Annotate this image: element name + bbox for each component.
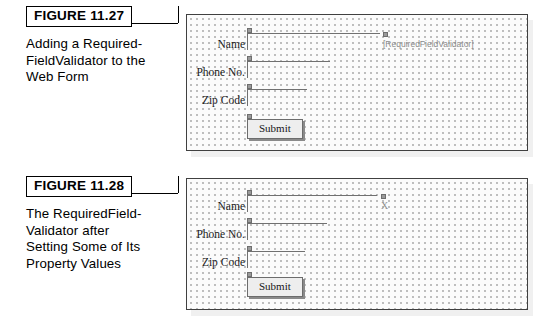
web-form-designer-panel-1127[interactable]: Name [RequiredFieldValidator] Phone No. … <box>186 14 528 151</box>
required-field-validator-error-mark[interactable]: X <box>381 201 388 211</box>
label-name: Name <box>218 38 245 50</box>
form-row-zip: Zip Code <box>187 251 507 273</box>
field-wrap-name <box>247 195 377 214</box>
field-wrap-name <box>247 33 380 52</box>
field-wrap-phone <box>247 61 330 80</box>
caption-line: Web Form <box>26 69 178 86</box>
label-phone-no: Phone No. <box>196 66 245 78</box>
field-wrap-zip <box>247 89 307 108</box>
caption-line: Adding a Required- <box>26 36 178 53</box>
field-wrap-zip <box>247 251 305 270</box>
field-wrap-phone <box>247 223 327 242</box>
form-row-name: Name [RequiredFieldValidator] <box>187 33 507 55</box>
figure-number-badge: FIGURE 11.28 <box>26 176 132 197</box>
label-zip-code: Zip Code <box>202 94 245 106</box>
validator-handle-icon[interactable] <box>381 194 386 199</box>
required-field-validator-label[interactable]: [RequiredFieldValidator] <box>383 39 474 49</box>
figure-caption-text: Adding a Required- FieldValidator to the… <box>26 36 178 86</box>
validator-handle-icon[interactable] <box>383 32 388 37</box>
submit-button[interactable]: Submit <box>247 119 303 139</box>
web-form-designer-panel-1128[interactable]: Name X Phone No. Zip Code S <box>186 178 528 310</box>
caption-line: The RequiredField- <box>26 206 178 223</box>
figure-number-badge: FIGURE 11.27 <box>26 6 132 27</box>
caption-line: Validator after <box>26 223 178 240</box>
figure-caption-1127: FIGURE 11.27 Adding a Required- FieldVal… <box>26 6 178 86</box>
label-name: Name <box>218 200 245 212</box>
form-row-phone: Phone No. <box>187 61 507 83</box>
caption-line: Property Values <box>26 256 178 273</box>
figure-caption-vertical-rule <box>178 176 179 193</box>
label-phone-no: Phone No. <box>196 228 245 240</box>
form-row-phone: Phone No. <box>187 223 507 245</box>
textbox-name[interactable] <box>247 33 380 50</box>
textbox-phone-no[interactable] <box>247 61 330 78</box>
caption-line: FieldValidator to the <box>26 53 178 70</box>
figure-caption-1128: FIGURE 11.28 The RequiredField- Validato… <box>26 176 178 272</box>
figure-caption-text: The RequiredField- Validator after Setti… <box>26 206 178 272</box>
caption-line: Setting Some of Its <box>26 239 178 256</box>
figure-caption-vertical-rule <box>178 6 179 23</box>
form-row-zip: Zip Code <box>187 89 507 111</box>
label-zip-code: Zip Code <box>202 256 245 268</box>
textbox-zip-code[interactable] <box>247 251 305 268</box>
textbox-phone-no[interactable] <box>247 223 327 240</box>
form-row-name: Name X <box>187 195 507 217</box>
textbox-name[interactable] <box>247 195 377 212</box>
textbox-zip-code[interactable] <box>247 89 307 106</box>
submit-button[interactable]: Submit <box>247 277 303 297</box>
